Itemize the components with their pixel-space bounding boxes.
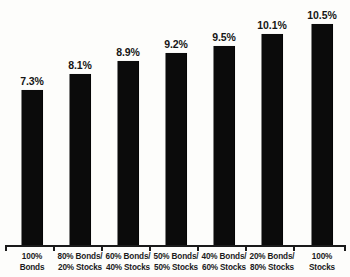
bar [118, 61, 139, 246]
bar-group: 7.3% [8, 0, 56, 247]
bar-group: 9.2% [152, 0, 200, 247]
bar [22, 90, 43, 246]
plot-area: 7.3% 8.1% 8.9% 9.2% 9.5% 10.1% 10.5% [0, 0, 350, 247]
axis-tick [293, 246, 295, 251]
bar-value-label: 10.5% [307, 9, 336, 21]
bar-group: 10.5% [298, 0, 346, 247]
bar-value-label: 7.3% [20, 75, 44, 87]
bar [166, 53, 187, 246]
bar-value-label: 9.2% [164, 38, 188, 50]
axis-tick [5, 246, 7, 251]
bar-value-label: 8.9% [116, 46, 140, 58]
bar-group: 9.5% [200, 0, 248, 247]
axis-tick [101, 246, 103, 251]
x-tick-label-line1: 100% [291, 252, 350, 263]
bar [262, 34, 283, 246]
bar-group: 8.9% [104, 0, 152, 247]
bar [70, 74, 91, 246]
x-tick-label: 100% Stocks [291, 252, 350, 273]
axis-tick [197, 246, 199, 251]
axis-tick [245, 246, 247, 251]
x-axis-labels: 100% Bonds 80% Bonds/ 20% Stocks 60% Bon… [0, 252, 350, 277]
bar-value-label: 9.5% [212, 31, 236, 43]
bar-value-label: 8.1% [68, 59, 92, 71]
bar-chart: 7.3% 8.1% 8.9% 9.2% 9.5% 10.1% 10.5% [0, 0, 350, 277]
x-tick-label-line2: Stocks [291, 263, 350, 274]
axis-tick [53, 246, 55, 251]
axis-tick [149, 246, 151, 251]
bar [214, 46, 235, 246]
bar-value-label: 10.1% [257, 19, 286, 31]
axis-tick [344, 246, 346, 251]
bar-group: 8.1% [56, 0, 104, 247]
bar-group: 10.1% [248, 0, 296, 247]
x-axis-line [5, 245, 346, 247]
bar [312, 24, 333, 246]
